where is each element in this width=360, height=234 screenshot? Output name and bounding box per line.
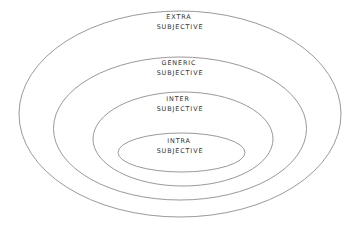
label-inter-line1: INTER bbox=[0, 95, 358, 105]
label-intra-subjective: INTRA SUBJECTIVE bbox=[0, 137, 360, 157]
concentric-subjectivity-diagram: EXTRA SUBJECTIVE GENERIC SUBJECTIVE INTE… bbox=[0, 0, 360, 234]
label-extra-line2: SUBJECTIVE bbox=[0, 23, 360, 33]
label-intra-line2: SUBJECTIVE bbox=[0, 147, 360, 157]
rings-svg bbox=[0, 0, 360, 234]
label-generic-line1: GENERIC bbox=[0, 59, 359, 69]
label-inter-line2: SUBJECTIVE bbox=[0, 105, 360, 115]
label-extra-subjective: EXTRA SUBJECTIVE bbox=[0, 13, 360, 33]
label-intra-line1: INTRA bbox=[0, 137, 359, 147]
label-inter-subjective: INTER SUBJECTIVE bbox=[0, 95, 360, 115]
label-generic-subjective: GENERIC SUBJECTIVE bbox=[0, 59, 360, 79]
label-extra-line1: EXTRA bbox=[0, 13, 359, 23]
label-generic-line2: SUBJECTIVE bbox=[0, 69, 360, 79]
